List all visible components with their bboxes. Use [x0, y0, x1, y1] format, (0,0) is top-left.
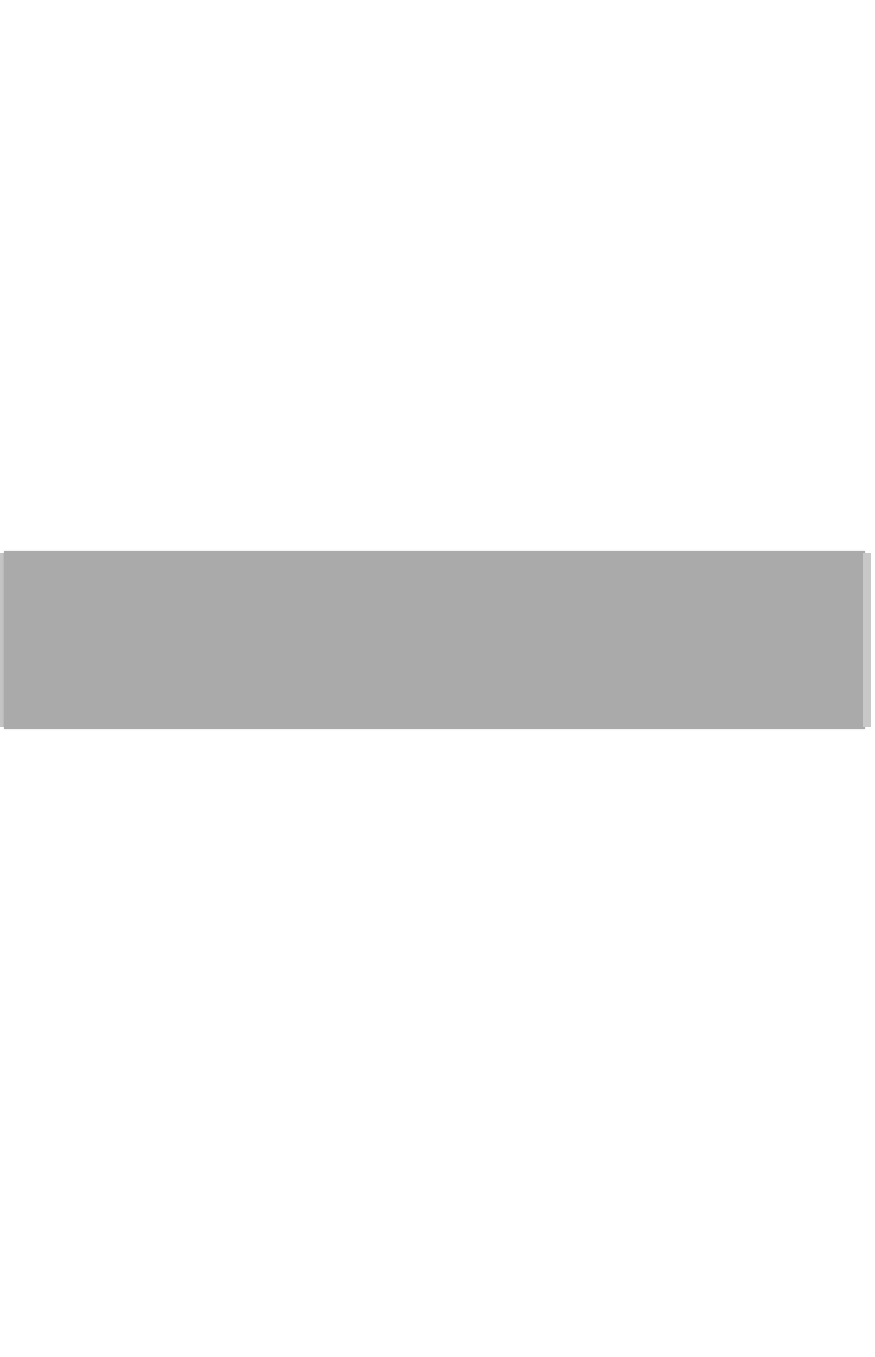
band-right-edge	[863, 553, 871, 727]
gray-band	[4, 551, 865, 729]
blank-page	[0, 0, 875, 1357]
